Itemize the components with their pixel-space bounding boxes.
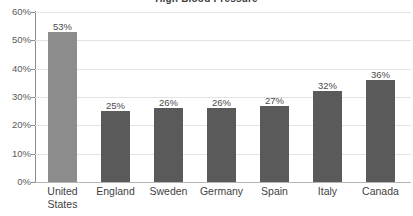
x-tick-label-canada: Canada — [354, 185, 407, 198]
gridline-50 — [35, 40, 411, 41]
bar-value-germany: 26% — [195, 97, 248, 108]
x-tick-label-united-states: United States — [36, 185, 89, 211]
bar-canada[interactable] — [366, 80, 395, 182]
bar-value-england: 25% — [89, 100, 142, 111]
x-tick-label-england: England — [89, 185, 142, 198]
x-tick-label-spain: Spain — [248, 185, 301, 198]
x-tick-label-canada-line1: Canada — [354, 185, 407, 198]
chart-title: High Blood Pressure — [0, 0, 413, 4]
x-tick-label-italy: Italy — [301, 185, 354, 198]
bar-value-italy: 32% — [301, 80, 354, 91]
bar-united-states[interactable] — [48, 32, 77, 182]
bar-value-spain: 27% — [248, 95, 301, 106]
x-tick-label-sweden-line1: Sweden — [142, 185, 195, 198]
gridline-60 — [35, 12, 411, 13]
bar-chart: High Blood Pressure 60% 50% 40% 30% 20% … — [0, 0, 413, 216]
bar-value-sweden: 26% — [142, 97, 195, 108]
x-tick-label-united-states-line1: United — [36, 185, 89, 198]
x-tick-label-spain-line1: Spain — [248, 185, 301, 198]
bar-italy[interactable] — [313, 91, 342, 182]
y-axis: 60% 50% 40% 30% 20% 10% 0% — [0, 0, 31, 216]
bar-spain[interactable] — [260, 106, 289, 183]
plot-area: 53% 25% 26% 26% 27% 32% 36% — [35, 12, 411, 182]
y-tick-label-30: 30% — [1, 92, 31, 102]
x-tick-label-sweden: Sweden — [142, 185, 195, 198]
x-tick-label-germany: Germany — [195, 185, 248, 198]
x-tick-label-italy-line1: Italy — [301, 185, 354, 198]
bar-value-canada: 36% — [354, 69, 407, 80]
y-tick-label-60: 60% — [1, 7, 31, 17]
bar-england[interactable] — [101, 111, 130, 182]
x-tick-label-england-line1: England — [89, 185, 142, 198]
y-tick-label-10: 10% — [1, 149, 31, 159]
y-tick-label-20: 20% — [1, 120, 31, 130]
y-tick-label-0: 0% — [1, 177, 31, 187]
gridline-baseline-0 — [35, 182, 411, 183]
bar-sweden[interactable] — [154, 108, 183, 182]
y-tick-label-40: 40% — [1, 64, 31, 74]
x-tick-label-germany-line1: Germany — [195, 185, 248, 198]
x-axis: United States England Sweden Germany Spa… — [35, 185, 411, 216]
y-tick-label-50: 50% — [1, 35, 31, 45]
bar-germany[interactable] — [207, 108, 236, 182]
bar-value-united-states: 53% — [36, 21, 89, 32]
x-tick-label-united-states-line2: States — [36, 198, 89, 211]
